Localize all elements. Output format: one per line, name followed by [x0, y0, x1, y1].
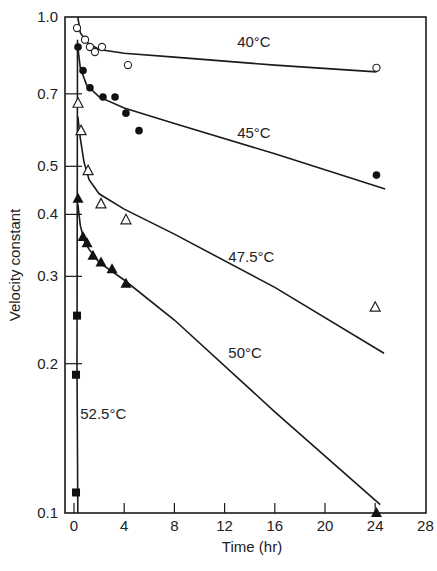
series-label: 52.5°C — [80, 405, 126, 422]
x-axis-ticks: 0481216202428 — [70, 503, 434, 534]
y-tick-label: 1.0 — [37, 8, 58, 25]
marker-filled-square — [73, 312, 81, 320]
curve-52-5c — [77, 40, 78, 513]
marker-filled-circle — [373, 171, 381, 179]
marker-open-circle — [124, 61, 131, 68]
marker-open-circle — [98, 43, 105, 50]
marker-filled-circle — [74, 43, 82, 51]
marker-filled-triangle — [73, 193, 84, 203]
series-label: 45°C — [237, 124, 271, 141]
x-tick-label: 24 — [367, 517, 384, 534]
curve-47-5c — [78, 117, 384, 354]
x-tick-label: 28 — [417, 517, 434, 534]
x-tick-label: 20 — [317, 517, 334, 534]
marker-open-triangle — [121, 214, 131, 224]
y-tick-label: 0.7 — [37, 85, 58, 102]
y-axis-label: Velocity constant — [6, 208, 23, 321]
marker-filled-circle — [122, 109, 130, 117]
marker-filled-triangle — [371, 507, 382, 517]
marker-filled-circle — [86, 84, 94, 92]
marker-open-circle — [373, 64, 380, 71]
x-tick-label: 4 — [120, 517, 128, 534]
marker-filled-circle — [135, 127, 143, 135]
x-tick-label: 8 — [170, 517, 178, 534]
data-markers — [72, 24, 382, 517]
marker-open-triangle — [96, 198, 106, 208]
series-label: 40°C — [237, 33, 271, 50]
marker-filled-triangle — [87, 250, 98, 260]
marker-open-triangle — [370, 302, 380, 312]
marker-filled-circle — [79, 67, 87, 75]
y-tick-label: 0.5 — [37, 157, 58, 174]
marker-filled-circle — [99, 93, 107, 101]
x-tick-label: 12 — [216, 517, 233, 534]
x-axis-label: Time (hr) — [222, 538, 282, 555]
marker-filled-square — [72, 371, 80, 379]
curve-45c — [78, 47, 385, 189]
curve-40c — [78, 17, 377, 72]
y-tick-label: 0.1 — [37, 504, 58, 521]
marker-open-triangle — [73, 98, 83, 108]
x-tick-label: 16 — [266, 517, 283, 534]
y-tick-label: 0.3 — [37, 267, 58, 284]
marker-open-circle — [81, 36, 88, 43]
y-tick-label: 0.2 — [37, 355, 58, 372]
marker-open-circle — [91, 48, 98, 55]
series-label: 47.5°C — [228, 248, 274, 265]
marker-filled-square — [72, 488, 80, 496]
series-labels: 40°C45°C47.5°C50°C52.5°C — [80, 33, 274, 422]
series-label: 50°C — [228, 344, 262, 361]
y-axis-ticks: 0.10.20.30.40.50.71.0 — [37, 8, 82, 521]
y-tick-label: 0.4 — [37, 205, 58, 222]
velocity-constant-chart: 0481216202428 0.10.20.30.40.50.71.0 40°C… — [0, 0, 437, 571]
marker-open-circle — [73, 24, 80, 31]
marker-filled-circle — [111, 93, 119, 101]
x-tick-label: 0 — [70, 517, 78, 534]
